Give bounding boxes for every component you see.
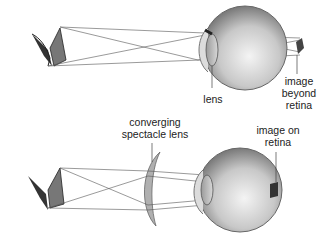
farsightedness-diagram: lens image beyond retina converging spec… — [0, 0, 329, 250]
converging-spectacle-lens-label: converging spectacle lens — [110, 116, 200, 140]
image-beyond-retina-label: image beyond retina — [278, 75, 320, 111]
image-label-line1: image — [278, 75, 320, 87]
lens-label: lens — [198, 93, 228, 105]
image-on-retina-label: image on retina — [252, 124, 304, 148]
bottom-butterfly-object — [28, 168, 64, 210]
image-on-label-line2: retina — [252, 136, 304, 148]
image-label-line3: retina — [278, 99, 320, 111]
image-on-label-line1: image on — [252, 124, 304, 136]
spectacle-label-line1: converging — [110, 116, 200, 128]
converging-spectacle-lens — [144, 152, 160, 226]
top-butterfly-object — [32, 28, 66, 66]
spectacle-label-line2: spectacle lens — [110, 128, 200, 140]
image-label-line2: beyond — [278, 87, 320, 99]
bottom-image-on-retina — [270, 182, 278, 198]
bottom-eye — [194, 148, 282, 232]
